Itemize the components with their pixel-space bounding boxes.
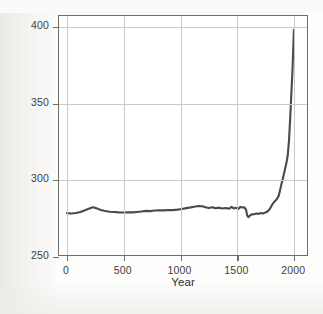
x-axis-title: Year <box>58 276 308 288</box>
gridline-horizontal <box>59 27 307 28</box>
x-axis-tick-label: 2000 <box>271 264 315 276</box>
y-axis-tick <box>53 257 59 258</box>
y-axis-tick <box>53 27 59 28</box>
y-axis-tick <box>53 104 59 105</box>
y-axis-tick-label: 300 <box>15 172 49 184</box>
data-series-line <box>59 16 307 255</box>
x-axis-tick-label: 500 <box>101 264 145 276</box>
plot-area <box>58 15 308 256</box>
gridline-vertical <box>237 16 238 255</box>
gridline-vertical <box>124 16 125 255</box>
x-axis-tick <box>294 255 295 261</box>
y-axis-tick-label: 400 <box>15 19 49 31</box>
x-axis-tick-label: 0 <box>44 264 88 276</box>
gridline-vertical <box>67 16 68 255</box>
x-axis-tick <box>181 255 182 261</box>
gridline-horizontal <box>59 104 307 105</box>
x-axis-tick-label: 1500 <box>214 264 258 276</box>
gridline-horizontal <box>59 180 307 181</box>
caption-bleed-text <box>36 0 316 8</box>
x-axis-tick-label: 1000 <box>158 264 202 276</box>
gridline-vertical <box>181 16 182 255</box>
y-axis-tick <box>53 180 59 181</box>
x-axis-tick <box>124 255 125 261</box>
figure-container: Carbon dioxide (CO2) (ppm) Year 25030035… <box>0 0 323 314</box>
paper-tint-top <box>0 0 323 13</box>
x-axis-tick <box>237 255 238 261</box>
gridline-vertical <box>294 16 295 255</box>
y-axis-tick-label: 250 <box>15 249 49 261</box>
y-axis-tick-label: 350 <box>15 96 49 108</box>
x-axis-tick <box>67 255 68 261</box>
